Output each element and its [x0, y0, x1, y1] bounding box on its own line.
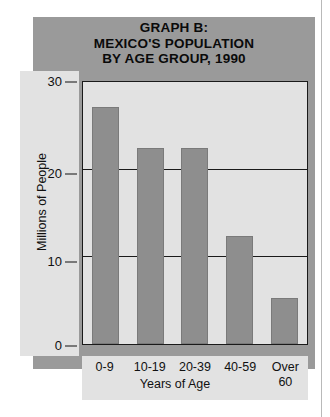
y-tick-mark-0 — [65, 346, 77, 347]
page-edge-rule — [321, 0, 322, 417]
chart-title: GRAPH B: MEXICO'S POPULATION BY AGE GROU… — [33, 20, 315, 67]
bar-over-60 — [271, 298, 298, 344]
chart-figure: GRAPH B: MEXICO'S POPULATION BY AGE GROU… — [0, 0, 330, 417]
y-tick-label-10: 10 — [48, 254, 62, 269]
y-tick-label-0: 0 — [55, 338, 62, 353]
x-tick-over-60: Over 60 — [265, 360, 305, 390]
y-tick-mark-20 — [65, 174, 77, 175]
y-tick-0: 0 — [25, 338, 77, 353]
chart-title-line-2: MEXICO'S POPULATION — [33, 36, 315, 52]
plot-area — [82, 81, 308, 345]
x-tick-over-60-line-2: 60 — [265, 375, 305, 390]
chart-title-line-3: BY AGE GROUP, 1990 — [33, 51, 315, 67]
x-tick-10-19-line-1: 10-19 — [130, 360, 170, 375]
y-tick-label-20: 20 — [48, 166, 62, 181]
y-tick-label-30: 30 — [48, 74, 62, 89]
x-tick-40-59-line-1: 40-59 — [220, 360, 260, 375]
y-axis-panel: Millions of People 30 20 10 0 — [20, 71, 79, 356]
bar-series — [83, 82, 307, 344]
y-tick-20: 20 — [25, 166, 77, 181]
x-tick-over-60-line-1: Over — [265, 360, 305, 375]
x-axis-panel: 0-9 10-19 20-39 40-59 Over 60 Years of A… — [82, 356, 308, 400]
x-axis-title: Years of Age — [82, 377, 268, 391]
y-tick-30: 30 — [25, 74, 77, 89]
chart-title-line-1: GRAPH B: — [33, 20, 315, 36]
y-axis-title: Millions of People — [35, 102, 53, 302]
y-tick-10: 10 — [25, 254, 77, 269]
bar-20-39 — [181, 148, 208, 344]
bar-0-9 — [92, 107, 119, 344]
x-tick-20-39-line-1: 20-39 — [175, 360, 215, 375]
y-tick-mark-10 — [65, 262, 77, 263]
x-tick-0-9-line-1: 0-9 — [85, 360, 125, 375]
bar-10-19 — [137, 148, 164, 344]
y-tick-mark-30 — [65, 82, 77, 83]
bar-40-59 — [226, 236, 253, 344]
